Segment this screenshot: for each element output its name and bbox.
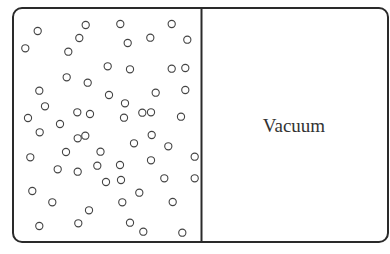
gas-molecule	[169, 198, 176, 205]
gas-molecule	[179, 229, 186, 236]
gas-molecule	[177, 113, 184, 120]
gas-molecule	[117, 20, 124, 27]
gas-molecule	[54, 166, 61, 173]
gas-molecule	[104, 63, 111, 70]
vacuum-label: Vacuum	[263, 115, 325, 136]
gas-molecule	[36, 87, 43, 94]
gas-molecule	[75, 220, 82, 227]
gas-molecule	[97, 148, 104, 155]
gas-molecule	[116, 161, 123, 168]
gas-molecule	[74, 135, 81, 142]
gas-molecule	[63, 74, 70, 81]
gas-molecule	[76, 34, 83, 41]
gas-molecule	[105, 91, 112, 98]
gas-molecule	[102, 178, 109, 185]
gas-molecule	[191, 175, 198, 182]
gas-molecule	[148, 131, 155, 138]
gas-molecule	[22, 45, 29, 52]
gas-molecule	[82, 132, 89, 139]
gas-molecule	[139, 109, 146, 116]
gas-molecule	[62, 148, 69, 155]
gas-molecule	[184, 36, 191, 43]
gas-molecule	[126, 66, 133, 73]
gas-molecule	[56, 120, 63, 127]
gas-molecule	[182, 64, 189, 71]
gas-molecule	[120, 114, 127, 121]
gas-molecule	[84, 79, 91, 86]
gas-molecule	[165, 143, 172, 150]
gas-molecule	[140, 228, 147, 235]
gas-molecule	[147, 157, 154, 164]
gas-molecule	[36, 129, 43, 136]
gas-molecule	[126, 219, 133, 226]
gas-molecule	[27, 154, 34, 161]
gas-molecule	[168, 65, 175, 72]
gas-molecule	[130, 140, 137, 147]
gas-molecule	[36, 222, 43, 229]
gas-molecule	[136, 189, 143, 196]
gas-expansion-diagram: Vacuum	[0, 0, 390, 254]
gas-molecule	[147, 34, 154, 41]
gas-molecule	[74, 168, 81, 175]
gas-molecule	[34, 27, 41, 34]
gas-molecule	[191, 153, 198, 160]
gas-molecule	[29, 187, 36, 194]
gas-molecule	[74, 109, 81, 116]
gas-molecule	[86, 110, 93, 117]
gas-molecules	[22, 20, 199, 236]
gas-molecule	[24, 114, 31, 121]
gas-molecule	[121, 100, 128, 107]
gas-molecule	[49, 199, 56, 206]
gas-molecule	[147, 109, 154, 116]
gas-molecule	[152, 89, 159, 96]
gas-molecule	[124, 39, 131, 46]
gas-molecule	[117, 176, 124, 183]
gas-molecule	[182, 86, 189, 93]
gas-molecule	[41, 103, 48, 110]
gas-molecule	[161, 175, 168, 182]
gas-molecule	[94, 162, 101, 169]
gas-molecule	[85, 207, 92, 214]
gas-molecule	[168, 20, 175, 27]
gas-molecule	[119, 199, 126, 206]
gas-molecule	[65, 48, 72, 55]
gas-molecule	[82, 21, 89, 28]
